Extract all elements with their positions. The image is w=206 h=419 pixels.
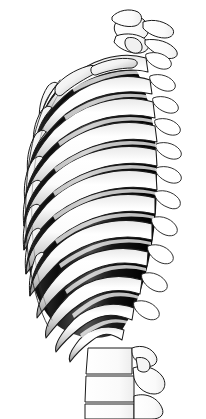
rib-cage-illustration: Human Rib Cage (Thoracic Cage) lateral o… bbox=[0, 0, 206, 419]
lumbar-vertebra-l3-body bbox=[85, 404, 134, 419]
lumbar-vertebrae-group bbox=[85, 346, 165, 419]
lumbar-vertebra-l2-body bbox=[85, 376, 134, 402]
anatomy-illustration-root: Human Rib Cage (Thoracic Cage) lateral o… bbox=[0, 0, 206, 419]
lumbar-vertebra-l1-body bbox=[86, 348, 132, 374]
